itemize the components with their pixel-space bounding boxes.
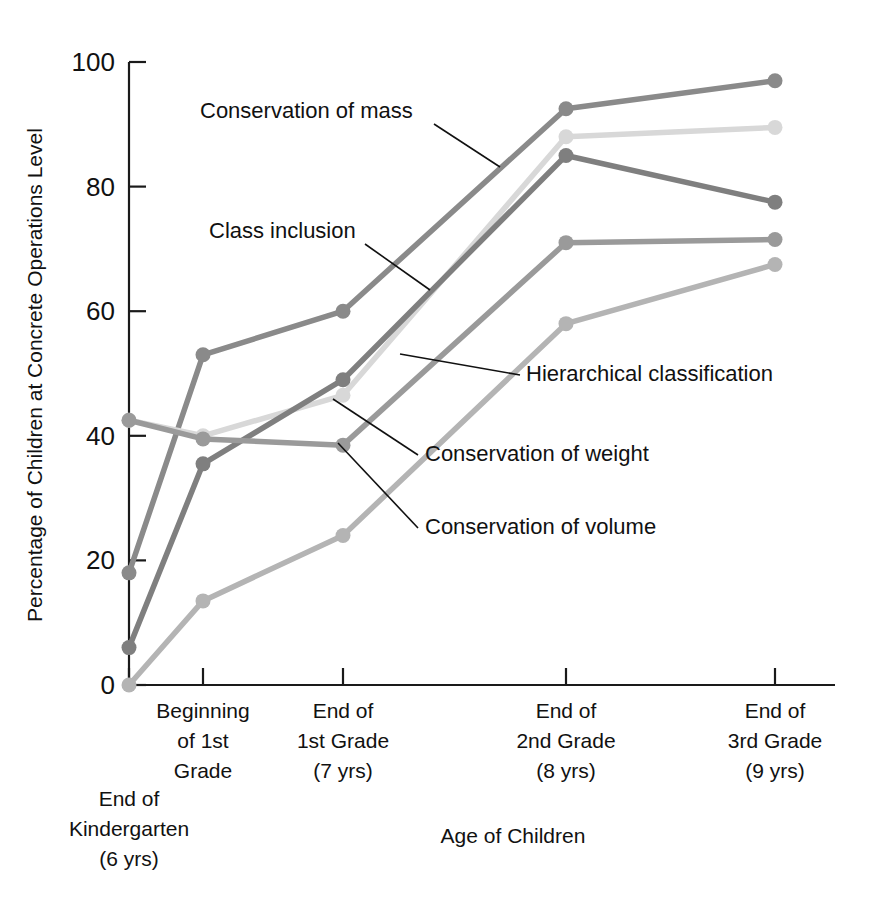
y-tick-label: 40 xyxy=(86,421,115,451)
data-point xyxy=(122,678,137,693)
series-line xyxy=(129,264,775,685)
x-category-label-line: Grade xyxy=(174,759,232,782)
annotation-label: Conservation of volume xyxy=(425,514,656,539)
data-point xyxy=(196,347,211,362)
data-point xyxy=(336,528,351,543)
y-tick-label: 0 xyxy=(101,670,115,700)
annotation-label: Class inclusion xyxy=(209,218,356,243)
x-axis-ticks xyxy=(129,668,775,685)
data-point xyxy=(196,593,211,608)
data-point xyxy=(196,456,211,471)
x-category-label-line: (7 yrs) xyxy=(313,759,373,782)
annotation-label: Hierarchical classification xyxy=(526,361,773,386)
data-point xyxy=(768,120,783,135)
series-line xyxy=(129,127,775,435)
x-category-label-line: 3rd Grade xyxy=(728,729,823,752)
line-chart-svg: Percentage of Children at Concrete Opera… xyxy=(0,0,883,905)
annotation-class-inclusion: Class inclusion xyxy=(209,218,430,290)
x-category-label-line: (8 yrs) xyxy=(536,759,596,782)
series-class-inclusion xyxy=(122,120,783,443)
x-category-label-line: Kindergarten xyxy=(69,817,189,840)
data-point xyxy=(768,232,783,247)
data-point xyxy=(768,257,783,272)
x-axis-title: Age of Children xyxy=(441,824,586,847)
annotation-hierarchical-classification: Hierarchical classification xyxy=(400,354,773,386)
annotation-leader-line xyxy=(434,124,500,167)
annotation-label: Conservation of mass xyxy=(200,98,413,123)
series-conservation-of-mass xyxy=(122,73,783,580)
data-point xyxy=(336,304,351,319)
data-point xyxy=(559,235,574,250)
data-point xyxy=(122,413,137,428)
y-axis-title: Percentage of Children at Concrete Opera… xyxy=(23,128,46,622)
x-category-label-line: 2nd Grade xyxy=(516,729,615,752)
annotation-leader-line xyxy=(338,443,418,528)
x-category-label-line: End of xyxy=(313,699,374,722)
data-point xyxy=(559,101,574,116)
y-tick-label: 80 xyxy=(86,172,115,202)
y-axis-ticks: 020406080100 xyxy=(72,47,146,700)
data-point xyxy=(768,73,783,88)
data-point xyxy=(336,372,351,387)
series-conservation-of-volume xyxy=(122,257,783,693)
x-category-label-line: (6 yrs) xyxy=(99,847,159,870)
y-tick-label: 100 xyxy=(72,47,115,77)
x-category-label-line: End of xyxy=(99,787,160,810)
data-point xyxy=(196,431,211,446)
annotation-label: Conservation of weight xyxy=(425,441,649,466)
data-point xyxy=(336,388,351,403)
y-tick-label: 60 xyxy=(86,296,115,326)
annotation-leader-line xyxy=(400,354,520,375)
data-point xyxy=(559,148,574,163)
x-category-label-line: End of xyxy=(536,699,597,722)
x-category-label-line: (9 yrs) xyxy=(745,759,805,782)
x-category-label-line: End of xyxy=(745,699,806,722)
chart-container: Percentage of Children at Concrete Opera… xyxy=(0,0,883,905)
data-point xyxy=(559,129,574,144)
y-axis-title-text: Percentage of Children at Concrete Opera… xyxy=(23,128,46,622)
series-line xyxy=(129,81,775,573)
data-point xyxy=(122,640,137,655)
x-category-label-line: 1st Grade xyxy=(297,729,389,752)
y-tick-label: 20 xyxy=(86,545,115,575)
data-point xyxy=(559,316,574,331)
data-point xyxy=(336,438,351,453)
data-point xyxy=(122,565,137,580)
data-point xyxy=(768,195,783,210)
x-category-label-line: of 1st xyxy=(177,729,229,752)
x-category-label-line: Beginning xyxy=(156,699,249,722)
annotation-conservation-of-mass: Conservation of mass xyxy=(200,98,500,167)
